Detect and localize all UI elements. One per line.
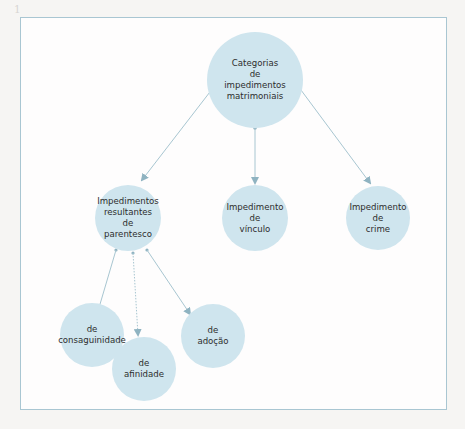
node-label-line: Impedimento: [226, 202, 283, 213]
node-label-line: Categorias: [224, 58, 286, 69]
edge-root-crime: [296, 84, 370, 183]
node-root-categorias: Categorias de impedimentos matrimoniais: [207, 32, 303, 128]
node-label-line: consaguinidade: [58, 335, 126, 346]
edge-parentesco-consaguinidade: [98, 248, 118, 311]
node-label-line: adoção: [197, 336, 228, 347]
node-parentesco: Impedimentos resultantes de parentesco: [95, 185, 161, 251]
node-label-line: de: [349, 213, 406, 224]
node-label-line: resultantes: [97, 207, 159, 218]
edge-parentesco-adocao: [145, 248, 190, 314]
node-label-line: de: [58, 324, 126, 335]
node-afinidade: de afinidade: [112, 337, 176, 401]
node-label-line: crime: [349, 224, 406, 235]
node-label-line: Impedimentos: [97, 196, 159, 207]
node-adocao: de adoção: [181, 304, 245, 368]
node-label-line: afinidade: [124, 369, 164, 380]
node-label-line: de: [197, 325, 228, 336]
node-label-line: vínculo: [226, 224, 283, 235]
node-label-line: impedimentos: [224, 80, 286, 91]
node-vinculo: Impedimento de vínculo: [222, 185, 288, 251]
node-crime: Impedimento de crime: [346, 186, 410, 250]
node-label-line: de: [224, 69, 286, 80]
node-label-line: Impedimento: [349, 202, 406, 213]
edge-root-vinculo: [253, 126, 257, 183]
node-label-line: de: [97, 218, 159, 229]
node-label-line: parentesco: [97, 229, 159, 240]
node-label-line: de: [124, 358, 164, 369]
node-label-line: matrimoniais: [224, 91, 286, 102]
edge-parentesco-afinidade: [131, 251, 138, 335]
node-label-line: de: [226, 213, 283, 224]
edge-root-parentesco: [142, 86, 215, 180]
